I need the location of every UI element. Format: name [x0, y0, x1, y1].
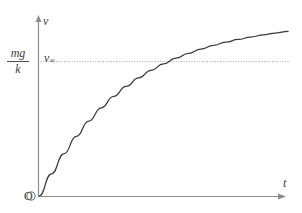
fraction-numerator: mg [9, 47, 28, 61]
velocity-curve [39, 31, 288, 196]
fraction-denominator: k [13, 62, 22, 76]
y-axis-label: v [43, 15, 48, 27]
plot-canvas [0, 0, 302, 213]
origin-label: O [24, 190, 33, 202]
y-axis [36, 15, 42, 197]
asymptote-label-subscript: ∞ [49, 56, 55, 65]
asymptote-label: v∞ [44, 52, 55, 65]
terminal-velocity-figure: v t v∞ mg k O [0, 0, 302, 213]
x-axis [38, 193, 286, 199]
y-axis-tick-label-mgk: mg k [7, 47, 29, 75]
x-axis-label: t [283, 177, 286, 189]
